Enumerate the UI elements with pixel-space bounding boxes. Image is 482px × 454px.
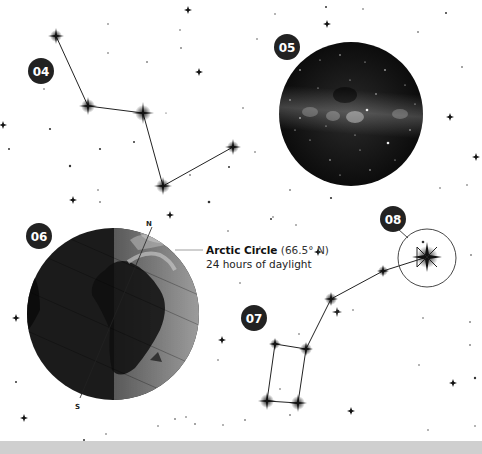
star-icon (258, 392, 276, 410)
south-label: S (75, 403, 80, 411)
star-icon (299, 342, 313, 356)
badge-06-label: 06 (31, 230, 48, 244)
arctic-circle-annotation: Arctic Circle (66.5° N) 24 hours of dayl… (206, 243, 329, 271)
arctic-circle-subtitle: 24 hours of daylight (206, 257, 329, 271)
north-label: N (146, 220, 152, 228)
star-icon (225, 139, 241, 155)
badge-05: 05 (274, 34, 300, 60)
bright-star-highlight (398, 229, 456, 287)
arctic-circle-latitude: (66.5° N) (281, 244, 329, 256)
star-icon (132, 102, 154, 124)
star-icon (154, 177, 172, 195)
badge-08-label: 08 (385, 213, 402, 227)
arctic-circle-title: Arctic Circle (206, 244, 277, 256)
star-icon (332, 307, 342, 317)
star-icon (289, 394, 307, 412)
badge-04: 04 (28, 58, 54, 84)
badge-07: 07 (241, 305, 267, 331)
star-icon (79, 97, 97, 115)
badge-08: 08 (380, 206, 406, 232)
star-icon (269, 338, 281, 350)
star-icon (377, 265, 389, 277)
badge-07-label: 07 (246, 312, 263, 326)
star-icon (324, 292, 338, 306)
badge-04-label: 04 (33, 65, 50, 79)
badge-05-label: 05 (279, 41, 296, 55)
constellation-cassiopeia (48, 28, 241, 195)
star-icon (48, 28, 64, 44)
constellation-big-dipper (258, 257, 427, 412)
bottom-band (0, 441, 482, 454)
earth-globe: N S (25, 220, 214, 411)
milky-way-view (278, 42, 425, 186)
star-chart-canvas: N S 04 (0, 0, 482, 454)
badge-06: 06 (26, 223, 52, 249)
